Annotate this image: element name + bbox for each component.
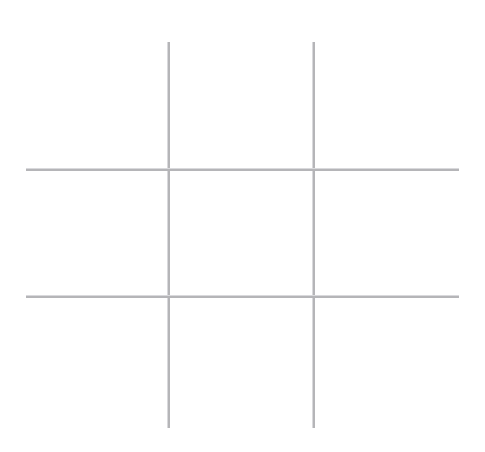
cell-middle-left[interactable] <box>26 171 168 296</box>
cell-top-right[interactable] <box>315 42 459 169</box>
cell-bottom-right[interactable] <box>315 298 459 428</box>
cell-top-left[interactable] <box>26 42 168 169</box>
cell-middle-center[interactable] <box>170 171 313 296</box>
tic-tac-toe-board <box>0 0 485 452</box>
cell-top-center[interactable] <box>170 42 313 169</box>
cell-bottom-center[interactable] <box>170 298 313 428</box>
cell-bottom-left[interactable] <box>26 298 168 428</box>
cell-middle-right[interactable] <box>315 171 459 296</box>
